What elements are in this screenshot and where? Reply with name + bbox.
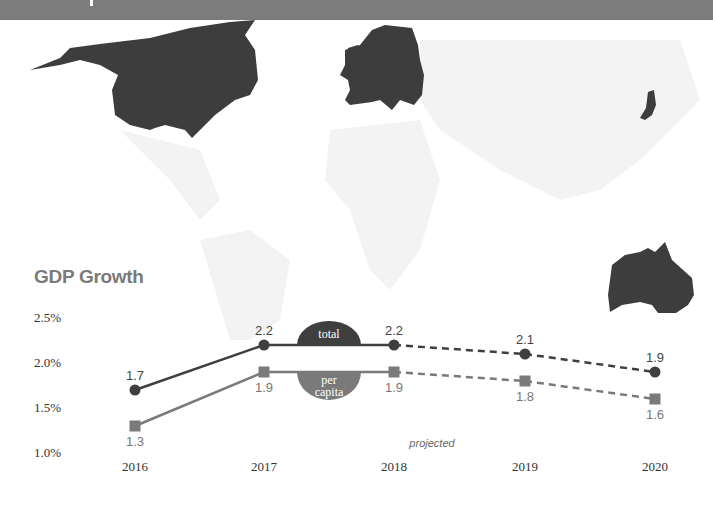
per-capita-data-label: 1.9 (385, 380, 403, 395)
y-tick-label: 1.5% (34, 400, 61, 415)
total-badge-label: total (318, 327, 340, 341)
total-data-label: 2.2 (385, 323, 403, 338)
x-tick-label: 2020 (642, 459, 668, 474)
total-line-segment (135, 345, 264, 390)
total-marker (650, 367, 661, 378)
per-capita-data-label: 1.8 (516, 389, 534, 404)
y-tick-label: 2.5% (34, 310, 61, 325)
series-badges: totalpercapita (297, 321, 361, 400)
per-capita-line-segment (525, 381, 655, 399)
x-axis: 20162017201820192020 (122, 459, 668, 474)
per-capita-data-label: 1.3 (126, 434, 144, 449)
total-data-label: 1.7 (126, 368, 144, 383)
y-tick-label: 1.0% (34, 445, 61, 460)
projected-label: projected (408, 437, 455, 449)
total-marker (520, 349, 531, 360)
x-tick-label: 2016 (122, 459, 149, 474)
gdp-growth-chart: 2.5%2.0%1.5%1.0% 20162017201820192020 to… (0, 0, 713, 511)
per-capita-marker (650, 394, 661, 405)
per-capita-marker (520, 376, 531, 387)
per-capita-marker (389, 367, 400, 378)
y-axis: 2.5%2.0%1.5%1.0% (34, 310, 61, 460)
total-data-label: 1.9 (646, 350, 664, 365)
total-data-label: 2.2 (255, 323, 273, 338)
total-line-segment (525, 354, 655, 372)
total-line-segment (394, 345, 525, 354)
per-capita-data-label: 1.9 (255, 380, 273, 395)
per-capita-data-label: 1.6 (646, 407, 664, 422)
total-marker (389, 340, 400, 351)
total-marker (130, 385, 141, 396)
per-capita-line-segment (135, 372, 264, 426)
per-capita-badge-label: capita (315, 385, 344, 399)
y-tick-label: 2.0% (34, 355, 61, 370)
per-capita-marker (259, 367, 270, 378)
per-capita-marker (130, 421, 141, 432)
x-tick-label: 2018 (381, 459, 407, 474)
x-tick-label: 2019 (512, 459, 538, 474)
per-capita-line-segment (394, 372, 525, 381)
total-data-label: 2.1 (516, 332, 534, 347)
total-marker (259, 340, 270, 351)
x-tick-label: 2017 (251, 459, 278, 474)
